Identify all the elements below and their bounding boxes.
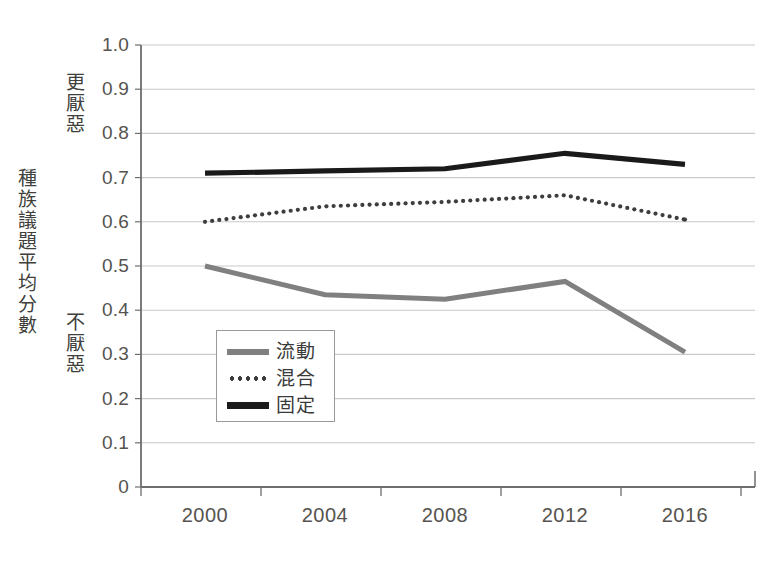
x-tick-label: 2016 — [625, 505, 745, 525]
x-tick-label: 2012 — [505, 505, 625, 525]
x-tick-label: 2004 — [265, 505, 385, 525]
legend-swatch-fluid-icon — [227, 346, 269, 358]
x-tick-label: 2008 — [385, 505, 505, 525]
legend-label-fixed: 固定 — [276, 396, 316, 415]
x-axis-ticks — [141, 487, 741, 496]
legend-label-mixed: 混合 — [276, 369, 316, 388]
legend-label-fluid: 流動 — [276, 342, 316, 361]
series-layer — [203, 153, 687, 352]
legend-item-fixed[interactable]: 固定 — [217, 392, 334, 419]
legend-swatch-fixed-icon — [227, 400, 269, 412]
legend[interactable]: 流動 混合 固定 — [216, 330, 335, 422]
legend-item-fluid[interactable]: 流動 — [217, 338, 334, 365]
plot-area — [0, 0, 782, 567]
legend-swatch-mixed-icon — [227, 373, 269, 385]
race-issue-line-chart: 種族議題平均分數 更厭惡 不厭惡 1.00.90.80.70.60.50.40.… — [0, 0, 782, 567]
x-tick-label: 2000 — [145, 505, 265, 525]
legend-item-mixed[interactable]: 混合 — [217, 365, 334, 392]
